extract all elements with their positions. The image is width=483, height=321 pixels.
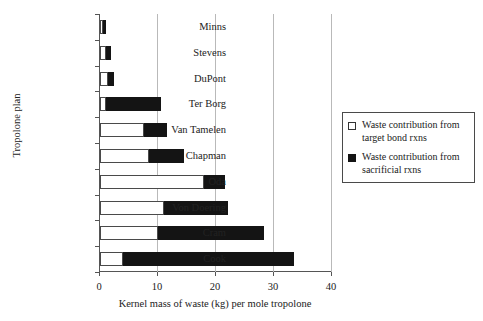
plot-area: 010203040 MinnsStevensDuPontTer BorgVan … [99, 14, 331, 272]
legend-item-sacrificial: Waste contribution from sacrificial rxns [348, 151, 468, 176]
y-tick-label-van-tamelen: Van Tamelen [26, 124, 226, 135]
y-tick-label-von-doering: Von Doering [26, 202, 226, 213]
chart-legend: Waste contribution from target bond rxns… [342, 112, 475, 183]
y-tick-8 [95, 220, 99, 221]
x-tick-20 [215, 272, 216, 276]
legend-label-sacrificial: Waste contribution from sacrificial rxns [362, 151, 468, 176]
y-tick-6 [95, 169, 99, 170]
y-tick-4 [95, 117, 99, 118]
x-tick-label-20: 20 [195, 281, 235, 292]
y-tick-3 [95, 91, 99, 92]
x-tick-10 [157, 272, 158, 276]
x-tick-40 [331, 272, 332, 276]
y-tick-1 [95, 40, 99, 41]
legend-item-target-bond: Waste contribution from target bond rxns [348, 119, 468, 144]
y-tick-label-minns: Minns [26, 21, 226, 32]
x-tick-label-40: 40 [311, 281, 351, 292]
y-tick-7 [95, 195, 99, 196]
y-tick-end [95, 272, 99, 273]
open-square-icon [348, 122, 356, 130]
legend-label-target-bond: Waste contribution from target bond rxns [362, 119, 468, 144]
x-tick-label-10: 10 [137, 281, 177, 292]
filled-square-icon [348, 154, 356, 162]
y-tick-5 [95, 143, 99, 144]
y-tick-2 [95, 66, 99, 67]
y-tick-9 [95, 246, 99, 247]
x-tick-0 [99, 272, 100, 276]
x-tick-label-0: 0 [79, 281, 119, 292]
x-tick-label-30: 30 [253, 281, 293, 292]
y-tick-label-chapman: Chapman [26, 150, 226, 161]
y-tick-label-cram: Cram [26, 227, 226, 238]
y-tick-label-ter-borg: Ter Borg [26, 98, 226, 109]
chart-figure: Tropolone plan 010203040 MinnsStevensDuP… [0, 0, 483, 321]
y-tick-0 [95, 14, 99, 15]
y-tick-label-cook: Cook [26, 253, 226, 264]
x-tick-30 [273, 272, 274, 276]
y-tick-label-stevens: Stevens [26, 47, 226, 58]
x-axis-title: Kernel mass of waste (kg) per mole tropo… [99, 298, 331, 309]
y-tick-label-oda: Oda [26, 176, 226, 187]
y-tick-label-dupont: DuPont [26, 73, 226, 84]
y-axis-title: Tropolone plan [11, 66, 22, 186]
